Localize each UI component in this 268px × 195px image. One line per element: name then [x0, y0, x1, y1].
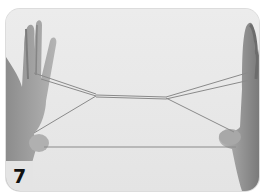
step-number-badge: 7 — [6, 161, 33, 191]
string-figure-photo — [6, 9, 259, 191]
photo-frame: 7 — [6, 9, 259, 191]
